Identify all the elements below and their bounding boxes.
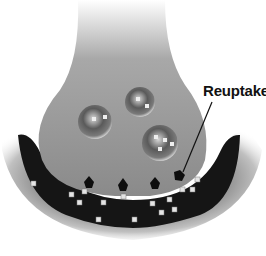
vesicle (78, 105, 112, 139)
presynaptic-terminal (39, 0, 207, 196)
synapse-illustration (0, 0, 266, 256)
reuptake-label: Reuptake (203, 82, 266, 99)
synapse-diagram: Reuptake (0, 0, 266, 256)
vesicle (125, 87, 155, 117)
